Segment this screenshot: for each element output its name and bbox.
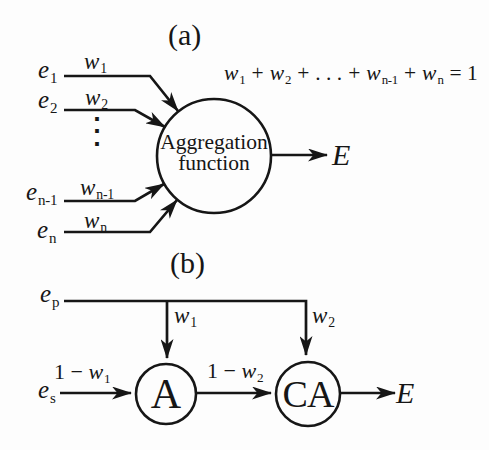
- node-ca-label: CA: [283, 375, 334, 413]
- weight-w1-label-b: w1: [174, 304, 197, 330]
- wn1-base: w: [80, 175, 95, 200]
- eq-plus: +: [404, 61, 416, 85]
- e1-base: e: [38, 56, 49, 83]
- input-en-label: en: [37, 217, 56, 246]
- eq-equals-one: = 1: [450, 61, 478, 85]
- panel-b-tag: (b): [170, 248, 205, 278]
- panel-a-tag: (a): [168, 20, 201, 50]
- w1-sub: 1: [100, 61, 107, 76]
- eq-term-wn1: wn-1: [366, 61, 398, 85]
- eq-term-wn: wn: [422, 61, 444, 85]
- eq-plus: +: [348, 61, 360, 85]
- edge-en1-arrow: [64, 184, 164, 201]
- e1-sub: 1: [50, 70, 57, 86]
- w1-base: w: [84, 49, 99, 74]
- wn-base: w: [84, 208, 99, 233]
- weight-wn1-label-a: wn-1: [80, 176, 114, 202]
- en-base: e: [37, 216, 48, 243]
- input-e2-label: e2: [38, 87, 57, 116]
- weight-w2-label-b: w2: [312, 304, 335, 330]
- w2-base: w: [85, 85, 100, 110]
- input-e1-label: e1: [38, 57, 57, 86]
- edge-label-1-minus-w1: 1 − w1: [54, 361, 110, 385]
- ep-sub: p: [52, 294, 59, 310]
- eq-term-w2: w2: [270, 61, 292, 85]
- aggregation-node-line2: function: [160, 153, 267, 174]
- es-base: e: [38, 376, 49, 403]
- eq-plus: +: [297, 61, 309, 85]
- eq-term-w1: w1: [224, 61, 246, 85]
- eq-ellipsis: . . .: [315, 61, 342, 85]
- e2-sub: 2: [50, 100, 57, 116]
- edge-e1-arrow: [64, 76, 178, 111]
- en1-base: e: [26, 178, 37, 205]
- aggregation-node-label: Aggregation function: [160, 132, 267, 174]
- input-ep-label: ep: [40, 281, 59, 310]
- wn-sub: n: [100, 220, 107, 235]
- weight-w2-label-a: w2: [85, 86, 108, 112]
- aggregation-node-line1: Aggregation: [160, 132, 267, 153]
- weight-w1-label-a: w1: [84, 50, 107, 76]
- eq-plus: +: [252, 61, 264, 85]
- output-e-label-a: E: [332, 140, 350, 170]
- figure-canvas: (a) e1 w1 e2 w2 ⋮ en-1 wn-1 en wn w1+w2+…: [0, 0, 489, 450]
- en-sub: n: [49, 230, 56, 246]
- wn1-sub: n-1: [96, 187, 114, 202]
- weight-wn-label-a: wn: [84, 209, 107, 235]
- vertical-ellipsis: ⋮: [79, 113, 115, 149]
- edge-en-arrow: [64, 200, 177, 232]
- input-en1-label: en-1: [26, 179, 57, 208]
- weight-sum-equation: w1+w2+. . .+wn-1+wn= 1: [224, 63, 481, 87]
- es-sub: s: [50, 390, 56, 406]
- e2-base: e: [38, 86, 49, 113]
- input-es-label: es: [38, 377, 56, 406]
- output-e-label-b: E: [396, 378, 414, 408]
- en1-sub: n-1: [38, 192, 57, 208]
- node-a-label: A: [151, 373, 181, 415]
- ep-base: e: [40, 280, 51, 307]
- edge-label-1-minus-w2: 1 − w2: [207, 360, 263, 384]
